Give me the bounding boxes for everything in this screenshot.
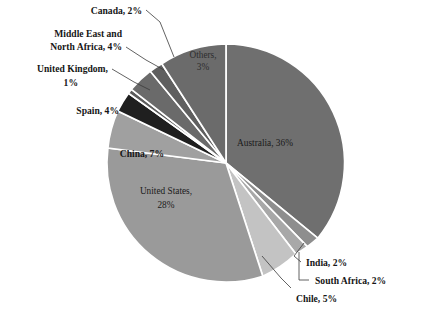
pie-slices: [107, 44, 345, 282]
label-united-states-line2: 28%: [157, 200, 174, 210]
label-spain: Spain, 4%: [76, 105, 119, 116]
label-mena-line1: Middle East and: [54, 28, 122, 39]
label-united-states-line1: United States,: [140, 186, 192, 196]
pie-chart-figure: Canada, 2% Middle East and North Africa,…: [0, 0, 426, 319]
label-others-line2: 3%: [197, 62, 210, 72]
label-india: India, 2%: [306, 257, 347, 268]
label-china: China, 7%: [120, 148, 164, 159]
label-australia: Australia, 36%: [237, 138, 293, 148]
label-others-line1: Others,: [189, 50, 216, 60]
pie-chart-svg: Canada, 2% Middle East and North Africa,…: [0, 0, 426, 319]
label-canada: Canada, 2%: [91, 5, 142, 16]
label-united-kingdom-line2: 1%: [64, 77, 78, 88]
label-mena-line2: North Africa, 4%: [50, 41, 122, 52]
label-chile: Chile, 5%: [296, 293, 337, 304]
label-south-africa: South Africa, 2%: [315, 275, 386, 286]
label-united-kingdom-line1: United Kingdom,: [37, 63, 109, 74]
